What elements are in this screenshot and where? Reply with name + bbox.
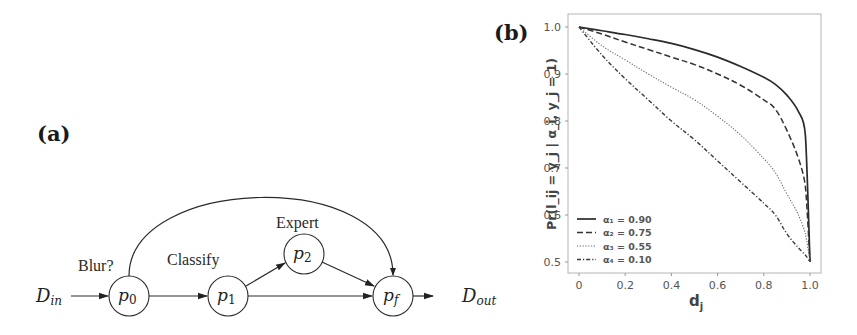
x-tick-label: 0.8 xyxy=(755,279,773,292)
x-axis-label: dj xyxy=(689,292,703,312)
probability-chart: 1.00.90.80.70.60.5 00.20.40.60.81.0 dj P… xyxy=(0,0,857,335)
x-tick-label: 0 xyxy=(576,279,583,292)
legend-entry: α₄ = 0.10 xyxy=(603,254,652,265)
x-axis-ticks: 00.20.40.60.81.0 xyxy=(576,273,819,292)
legend-entry: α₁ = 0.90 xyxy=(603,214,652,225)
legend-entry: α₃ = 0.55 xyxy=(603,241,652,252)
legend-entry: α₂ = 0.75 xyxy=(603,227,652,238)
x-tick-label: 1.0 xyxy=(801,279,819,292)
x-tick-label: 0.4 xyxy=(663,279,681,292)
x-tick-label: 0.2 xyxy=(616,279,634,292)
chart-legend: α₁ = 0.90α₂ = 0.75α₃ = 0.55α₄ = 0.10 xyxy=(577,214,652,266)
y-tick-label: 0.5 xyxy=(544,256,562,269)
y-axis-label: Pr(l_ij = y_j | α_i, y_j = 1) xyxy=(544,58,560,230)
y-tick-label: 1.0 xyxy=(544,21,562,34)
x-tick-label: 0.6 xyxy=(709,279,727,292)
